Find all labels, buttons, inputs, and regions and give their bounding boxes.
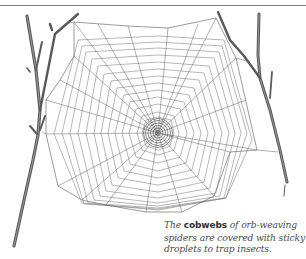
caption-keyword: cobwebs [184, 220, 227, 230]
web-spiral [54, 36, 252, 210]
web [42, 18, 278, 212]
figure-caption: The cobwebs of orb-weaving spiders are c… [164, 219, 306, 255]
caption-line-3: droplets to trap insects. [164, 243, 306, 255]
caption-line-2: spiders are covered with sticky [164, 232, 306, 244]
right-twig [218, 12, 287, 196]
caption-line-1: The cobwebs of orb-weaving [164, 219, 306, 232]
